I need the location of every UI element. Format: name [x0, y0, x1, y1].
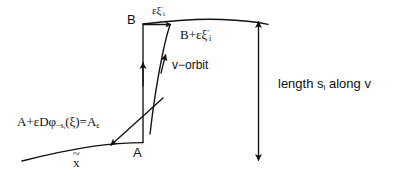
v-orbit-curve [150, 25, 170, 134]
label-A-epsilon-equation: A+εDφ−si(ξ)=Aε [17, 115, 100, 129]
label-point-A: A [133, 146, 142, 159]
label-v-orbit: v−orbit [172, 59, 208, 71]
subscript-i: i [209, 34, 211, 43]
label-point-B: B [127, 13, 136, 26]
A-epsilon-pointer-arrow [111, 108, 152, 145]
equation-subscript: −si [56, 121, 65, 130]
tilde-accent: ~ [73, 148, 80, 160]
label-B-plus-epsilon-xi: B+εξ′i [180, 28, 211, 41]
upper-manifold-curve [143, 19, 268, 24]
label-x-tilde: ~ x [73, 156, 80, 169]
subscript-i: i [163, 10, 165, 17]
label-epsilon-xi-displacement: εξ′i [152, 5, 165, 16]
x-tilde-group: ~ x [73, 156, 80, 169]
equation-subscript-epsilon: ε [96, 121, 99, 130]
label-length-along-v: length si along v [278, 77, 371, 90]
figure-canvas: B εξ′i B+εξ′i v−orbit A+εDφ−si(ξ)=Aε A ~… [0, 0, 393, 181]
lower-manifold-curve [22, 143, 143, 161]
